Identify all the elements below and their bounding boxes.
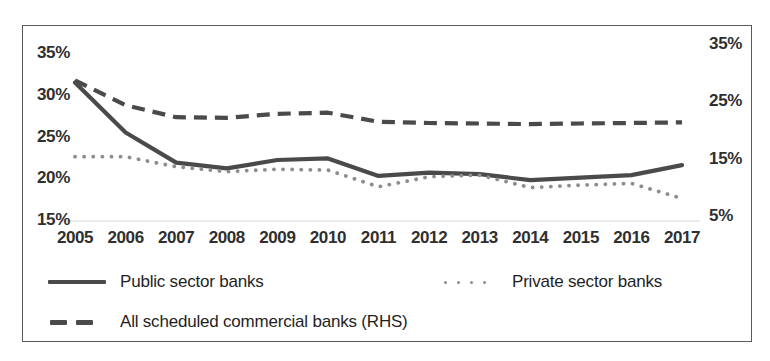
legend-label-private-sector-banks: Private sector banks xyxy=(512,272,662,292)
solid-line-key xyxy=(48,275,106,289)
legend-item-public-sector-banks: Public sector banks xyxy=(48,272,264,292)
x-axis-tick-2016: 2016 xyxy=(606,228,656,248)
x-axis-tick-2017: 2017 xyxy=(657,228,707,248)
right-axis-tick-0: 35% xyxy=(709,34,753,54)
left-axis-tick-1: 30% xyxy=(26,85,70,105)
x-axis-tick-2006: 2006 xyxy=(101,228,151,248)
legend-item-all-scheduled-commercial-banks: All scheduled commercial banks (RHS) xyxy=(48,312,408,332)
x-axis-tick-2015: 2015 xyxy=(556,228,606,248)
x-axis-tick-2008: 2008 xyxy=(202,228,252,248)
x-axis-tick-2005: 2005 xyxy=(50,228,100,248)
x-axis-tick-2009: 2009 xyxy=(252,228,302,248)
chart-frame xyxy=(22,25,752,342)
x-axis-tick-2012: 2012 xyxy=(404,228,454,248)
left-axis-tick-2: 25% xyxy=(26,127,70,147)
right-axis-tick-1: 25% xyxy=(709,91,753,111)
legend-item-private-sector-banks: Private sector banks xyxy=(440,272,662,292)
x-axis-tick-2014: 2014 xyxy=(505,228,555,248)
legend-label-public-sector-banks: Public sector banks xyxy=(120,272,264,292)
x-axis-tick-2011: 2011 xyxy=(354,228,404,248)
x-axis-tick-2010: 2010 xyxy=(303,228,353,248)
legend-label-all-scheduled-commercial-banks: All scheduled commercial banks (RHS) xyxy=(120,312,408,332)
right-axis-tick-3: 5% xyxy=(709,206,753,226)
left-axis-tick-3: 20% xyxy=(26,168,70,188)
dotted-line-key xyxy=(440,275,498,289)
right-axis-tick-2: 15% xyxy=(709,149,753,169)
x-axis-tick-2007: 2007 xyxy=(151,228,201,248)
left-axis-tick-0: 35% xyxy=(26,43,70,63)
dashed-line-key xyxy=(48,315,106,329)
x-axis-tick-2013: 2013 xyxy=(455,228,505,248)
left-axis-tick-4: 15% xyxy=(26,210,70,230)
